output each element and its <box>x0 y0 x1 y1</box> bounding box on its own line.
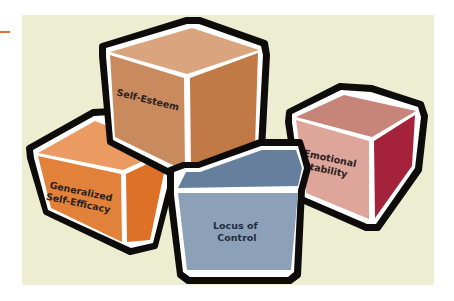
cube-label-locus-of-control: Locus of Control <box>213 220 261 243</box>
core-self-evaluations-diagram: Generalized Self-Efficacy Emotional Stab… <box>0 0 454 301</box>
cube-locus-of-control: Locus of Control <box>170 142 308 281</box>
cube-emotional-stability: Emotional Stability <box>288 86 425 228</box>
